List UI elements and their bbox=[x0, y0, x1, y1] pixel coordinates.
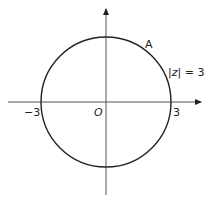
label-equation: |z| = 3 bbox=[168, 66, 204, 79]
label-neg-3: −3 bbox=[24, 106, 40, 119]
label-origin: O bbox=[94, 106, 103, 119]
diagram-svg: −3 O 3 A |z| = 3 bbox=[0, 0, 209, 201]
argand-diagram: −3 O 3 A |z| = 3 bbox=[0, 0, 209, 201]
eq-suffix: | = 3 bbox=[178, 66, 205, 79]
label-pos-3: 3 bbox=[173, 106, 180, 119]
label-point-a: A bbox=[145, 38, 153, 51]
